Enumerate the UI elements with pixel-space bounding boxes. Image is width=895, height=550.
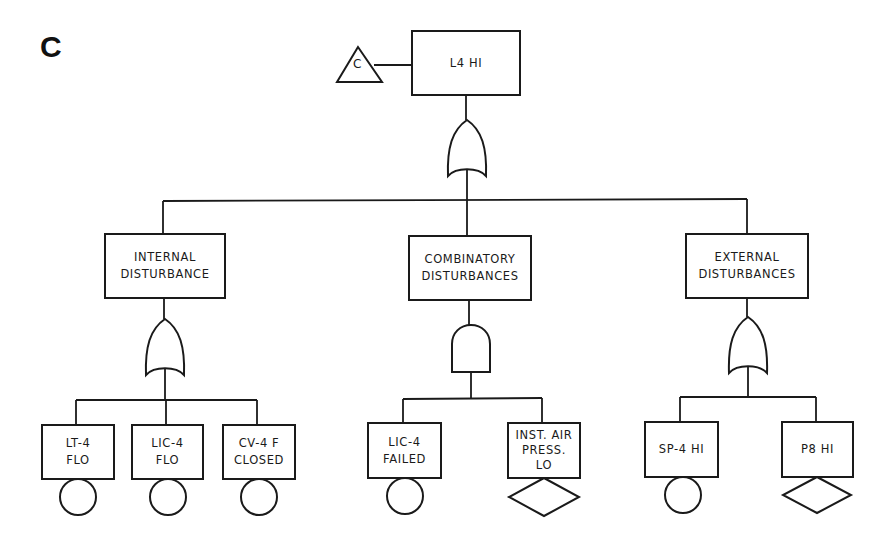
transfer-symbol-label: C [353, 57, 361, 71]
basic-event-lt4-flo: LT-4 FLO [41, 424, 115, 480]
or-gate-icon [448, 120, 486, 176]
basic-event-cv4f-closed: CV-4 F CLOSED [222, 424, 296, 480]
top-event-box: L4 HI [411, 30, 521, 96]
basic-event-sp4-hi: SP-4 HI [644, 421, 719, 478]
basic-event-circle-icon [241, 479, 277, 515]
or-gate-icon [146, 319, 184, 375]
intermediate-event-external-disturbances: EXTERNAL DISTURBANCES [685, 233, 809, 299]
basic-event-circle-icon [387, 478, 423, 514]
basic-event-lic4-failed: LIC-4 FAILED [367, 422, 442, 479]
fault-tree-diagram: C C L4 HI INTERNAL DISTURBANCE COMBINATO… [0, 0, 895, 550]
basic-event-lic4-flo: LIC-4 FLO [131, 424, 204, 480]
undeveloped-event-diamond-icon [783, 477, 851, 513]
event-inst-air-press-lo: INST. AIR PRESS. LO [507, 422, 581, 479]
basic-event-circle-icon [665, 477, 701, 513]
undeveloped-event-diamond-icon [509, 478, 579, 516]
basic-event-circle-icon [60, 479, 96, 515]
and-gate-icon [452, 325, 490, 372]
basic-event-circle-icon [150, 479, 186, 515]
panel-label: C [40, 32, 62, 62]
event-p8-hi: P8 HI [781, 421, 854, 478]
or-gate-icon [729, 317, 767, 373]
intermediate-event-internal-disturbance: INTERNAL DISTURBANCE [104, 233, 226, 299]
intermediate-event-combinatory-disturbances: COMBINATORY DISTURBANCES [408, 235, 532, 301]
